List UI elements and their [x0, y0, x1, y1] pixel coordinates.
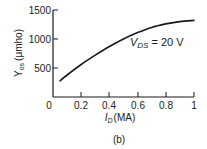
- x-tick-label: 0: [46, 100, 52, 111]
- y-axis-label-unit: (µmho): [13, 29, 24, 61]
- y-axis-label-sub: os: [18, 62, 25, 70]
- annotation-sub: DS: [137, 41, 149, 50]
- curve-annotation: VDS = 20 V: [130, 36, 184, 50]
- y-tick-label: 1500: [29, 5, 52, 16]
- annotation-rest: = 20 V: [148, 36, 184, 48]
- y-axis-label: Yos(µmho): [13, 29, 25, 77]
- x-tick-label: 0.2: [74, 100, 88, 111]
- x-tick-label: 0.8: [159, 100, 173, 111]
- x-axis-label-sub: D: [108, 117, 113, 124]
- x-tick-label: 1: [191, 100, 197, 111]
- x-tick-labels: 0 0.2 0.4 0.6 0.8 1: [46, 100, 197, 111]
- y-tick-labels: 1500 1000 500: [29, 5, 52, 74]
- y-tick-label: 500: [34, 63, 51, 74]
- x-axis-label-unit: (MA): [114, 112, 136, 123]
- figure-caption: (b): [113, 134, 125, 145]
- x-axis-label: ID(MA): [105, 112, 136, 124]
- data-line: [60, 20, 194, 80]
- chart: 1500 1000 500 0 0.2 0.4 0.6 0.8 1 ID(MA)…: [0, 0, 207, 149]
- x-tick-label: 0.6: [131, 100, 145, 111]
- x-tick-label: 0.4: [102, 100, 116, 111]
- y-tick-label: 1000: [29, 34, 52, 45]
